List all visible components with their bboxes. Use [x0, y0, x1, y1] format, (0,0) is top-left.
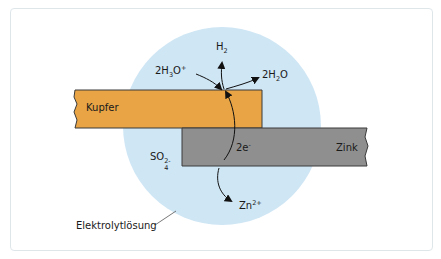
zinc-ion-label: Zn2+	[239, 201, 262, 211]
h2o-label: 2H2O	[262, 70, 288, 80]
sulfate-label: SO2-4	[150, 152, 171, 172]
electrolyte-leader-line	[155, 211, 176, 225]
h3o-label: 2H3O+	[155, 66, 186, 76]
electrons-label: 2e-	[236, 143, 251, 153]
electrolyte-label: Elektrolytlösung	[76, 221, 157, 231]
zinc-label: Zink	[336, 143, 358, 153]
copper-label: Kupfer	[86, 103, 119, 113]
h2-label: H2	[216, 42, 228, 52]
galvanic-cell-diagram	[0, 0, 441, 259]
